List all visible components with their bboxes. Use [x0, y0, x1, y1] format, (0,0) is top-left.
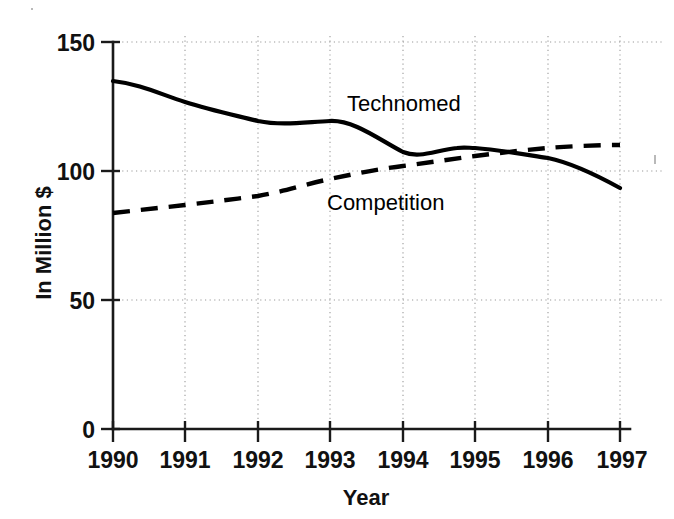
y-tick-label-100: 100 — [57, 159, 95, 185]
x-tick-label-1993: 1993 — [304, 447, 355, 473]
chart-canvas: 150 100 50 0 1990 1991 1992 1993 1994 19… — [0, 0, 674, 519]
x-tick-label-1994: 1994 — [377, 447, 428, 473]
line-chart: 150 100 50 0 1990 1991 1992 1993 1994 19… — [0, 0, 674, 519]
y-axis-title: In Million $ — [31, 186, 56, 300]
x-tick-label-1990: 1990 — [87, 447, 138, 473]
x-tick-label-1991: 1991 — [159, 447, 210, 473]
x-axis-title: Year — [343, 485, 390, 510]
y-tick-label-0: 0 — [82, 417, 95, 443]
y-tick-label-50: 50 — [69, 288, 95, 314]
series-label-technomed: Technomed — [347, 91, 461, 116]
series-label-competition: Competition — [327, 190, 444, 215]
x-tick-label-1995: 1995 — [449, 447, 500, 473]
y-tick-label-150: 150 — [57, 30, 95, 56]
x-tick-label-1992: 1992 — [232, 447, 283, 473]
x-tick-label-1996: 1996 — [522, 447, 573, 473]
x-tick-label-1997: 1997 — [596, 447, 647, 473]
chart-background — [0, 0, 674, 519]
